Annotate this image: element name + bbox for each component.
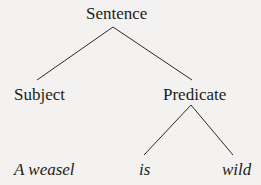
leaf-is: is [139, 161, 150, 179]
node-predicate: Predicate [163, 86, 226, 104]
edge-sentence-predicate [113, 27, 192, 80]
edge-predicate-wild [191, 105, 233, 155]
leaf-a-weasel: A weasel [14, 161, 75, 179]
parse-tree-diagram: Sentence Subject Predicate A weasel is w… [0, 0, 261, 185]
leaf-wild: wild [222, 161, 251, 179]
node-sentence: Sentence [86, 5, 147, 23]
edge-sentence-subject [37, 27, 113, 80]
node-subject: Subject [14, 86, 65, 104]
edge-predicate-is [144, 105, 191, 155]
